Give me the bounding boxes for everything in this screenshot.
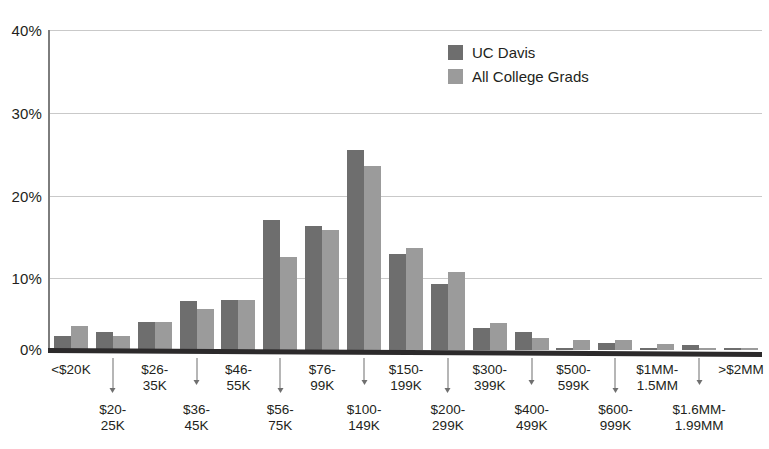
x-axis-tick-label: $26- 35K	[118, 362, 192, 393]
bar-group	[594, 30, 636, 350]
legend-item-all-college-grads: All College Grads	[448, 68, 589, 85]
x-axis-tick-arrow-icon	[108, 358, 117, 393]
y-tick-label-40: 40%	[11, 22, 42, 39]
y-tick-label-20: 20%	[11, 188, 42, 205]
legend-swatch-icon-uc-davis	[448, 45, 463, 60]
bar	[305, 226, 322, 350]
plot-area	[50, 30, 762, 350]
y-axis: 40% 30% 20% 10% 0%	[0, 0, 48, 449]
bar	[155, 322, 172, 350]
x-axis-tick-label: $1.6MM- 1.99MM	[662, 402, 736, 433]
bar	[657, 344, 674, 350]
x-axis-tick-arrow-icon	[360, 358, 369, 385]
bar	[741, 348, 758, 350]
bar	[280, 257, 297, 350]
bar	[322, 230, 339, 350]
bar	[347, 150, 364, 350]
bar-group	[259, 30, 301, 350]
x-axis-tick-label: $20- 25K	[76, 402, 150, 433]
bars-layer	[50, 30, 762, 350]
bar	[138, 322, 155, 350]
bar-group	[92, 30, 134, 350]
bar-group	[176, 30, 218, 350]
bar	[682, 345, 699, 350]
x-axis-tick-label: $600- 999K	[578, 402, 652, 433]
x-axis-tick-label: $56- 75K	[243, 402, 317, 433]
x-axis-tick-arrow-icon	[695, 358, 704, 385]
bar	[598, 343, 615, 350]
x-axis-tick-arrow-icon	[527, 358, 536, 385]
bar-group	[301, 30, 343, 350]
bar	[448, 272, 465, 350]
bar	[263, 220, 280, 350]
bar-group	[343, 30, 385, 350]
y-tick-label-10: 10%	[11, 270, 42, 287]
y-tick-label-30: 30%	[11, 105, 42, 122]
x-axis-tick-label: $36- 45K	[160, 402, 234, 433]
income-distribution-bar-chart: 40% 30% 20% 10% 0% UC Davis All College …	[0, 0, 769, 449]
x-axis-tick-label: $100- 149K	[327, 402, 401, 433]
bar	[180, 301, 197, 350]
bar	[699, 348, 716, 350]
bar	[532, 338, 549, 350]
x-axis-tick-label: $1MM- 1.5MM	[620, 362, 694, 393]
bar	[490, 323, 507, 350]
x-axis-tick-label: $200- 299K	[411, 402, 485, 433]
bar	[221, 300, 238, 350]
bar	[473, 328, 490, 350]
bar	[71, 326, 88, 350]
bar-group	[218, 30, 260, 350]
bar	[238, 300, 255, 350]
bar-group	[385, 30, 427, 350]
x-axis-tick-label: $46- 55K	[201, 362, 275, 393]
bar-group	[720, 30, 762, 350]
chart-legend: UC Davis All College Grads	[448, 44, 589, 85]
bar	[406, 248, 423, 350]
bar	[96, 332, 113, 350]
legend-label-uc-davis: UC Davis	[472, 44, 535, 61]
bar	[389, 254, 406, 350]
bar	[515, 332, 532, 350]
bar-group	[636, 30, 678, 350]
x-axis-tick-arrow-icon	[276, 358, 285, 393]
x-axis-labels: <$20K$20- 25K$26- 35K$36- 45K$46- 55K$56…	[50, 354, 762, 449]
x-axis-tick-arrow-icon	[192, 358, 201, 385]
bar	[431, 284, 448, 350]
x-axis-tick-label: $400- 499K	[495, 402, 569, 433]
bar	[556, 348, 573, 350]
bar	[573, 340, 590, 350]
legend-swatch-icon-all-college-grads	[448, 69, 463, 84]
bar	[640, 348, 657, 350]
legend-item-uc-davis: UC Davis	[448, 44, 589, 61]
bar	[615, 340, 632, 350]
bar	[724, 348, 741, 350]
x-axis-tick-arrow-icon	[443, 358, 452, 393]
x-axis-tick-label: $300- 399K	[453, 362, 527, 393]
x-axis-tick-label: >$2MM	[704, 362, 769, 378]
x-axis-tick-label: $500- 599K	[537, 362, 611, 393]
bar-group	[678, 30, 720, 350]
legend-label-all-college-grads: All College Grads	[472, 68, 589, 85]
x-axis-tick-label: <$20K	[34, 362, 108, 378]
x-axis-tick-label: $150- 199K	[369, 362, 443, 393]
bar-group	[134, 30, 176, 350]
y-tick-label-0: 0%	[20, 341, 42, 358]
x-axis-tick-arrow-icon	[611, 358, 620, 393]
x-axis-tick-label: $76- 99K	[285, 362, 359, 393]
bar	[197, 309, 214, 350]
bar-group	[50, 30, 92, 350]
bar	[364, 166, 381, 350]
